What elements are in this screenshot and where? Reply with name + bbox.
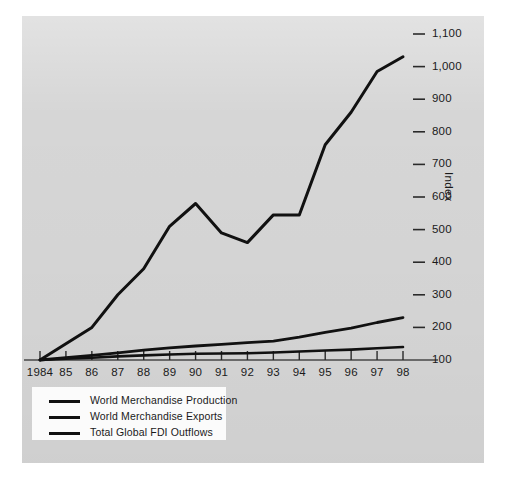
x-tick-label: 1984	[23, 366, 57, 378]
x-tick-label: 93	[263, 366, 283, 378]
x-tick-label: 87	[108, 366, 128, 378]
x-tick-label: 88	[134, 366, 154, 378]
x-tick-label: 85	[56, 366, 76, 378]
y-tick-label: 800	[432, 125, 452, 137]
x-tick-label: 91	[212, 366, 232, 378]
y-axis-title: Index	[443, 172, 455, 232]
x-tick-label: 97	[367, 366, 387, 378]
y-tick-label: 700	[432, 157, 452, 169]
x-tick-label: 98	[393, 366, 413, 378]
y-tick-label: 300	[432, 288, 452, 300]
x-tick-label: 92	[237, 366, 257, 378]
y-tick-label: 400	[432, 255, 452, 267]
legend-item: Total Global FDI Outflows	[32, 425, 226, 442]
chart-legend: World Merchandise ProductionWorld Mercha…	[32, 387, 226, 440]
axes-group	[24, 34, 438, 360]
legend-item: World Merchandise Exports	[32, 409, 226, 426]
chart-figure: 1002003004005006007008009001,0001,100 19…	[0, 0, 506, 484]
x-tick-label: 96	[341, 366, 361, 378]
series-line	[40, 57, 403, 360]
y-tick-label: 200	[432, 320, 452, 332]
y-tick-label: 1,000	[432, 60, 462, 72]
y-tick-label: 100	[432, 353, 452, 365]
legend-swatch	[49, 400, 80, 403]
x-tick-label: 89	[160, 366, 180, 378]
legend-item: World Merchandise Production	[32, 393, 226, 410]
x-tick-label: 86	[82, 366, 102, 378]
legend-swatch	[49, 416, 80, 419]
legend-label: Total Global FDI Outflows	[90, 426, 213, 438]
x-tick-label: 90	[186, 366, 206, 378]
legend-label: World Merchandise Production	[90, 394, 238, 406]
legend-swatch	[49, 432, 80, 435]
y-tick-label: 900	[432, 92, 452, 104]
series-group	[40, 57, 403, 360]
legend-label: World Merchandise Exports	[90, 410, 223, 422]
x-tick-label: 94	[289, 366, 309, 378]
y-tick-label: 1,100	[432, 27, 462, 39]
x-tick-label: 95	[315, 366, 335, 378]
